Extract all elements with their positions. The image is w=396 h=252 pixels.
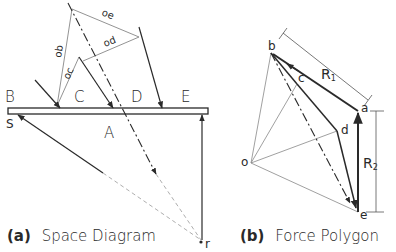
vertex-d-label: d	[341, 123, 349, 137]
vertex-a-label: a	[361, 101, 368, 115]
ray-od-label: od	[102, 34, 118, 49]
force-cd	[297, 84, 337, 131]
r2-letter: R	[363, 155, 373, 171]
resultant-be	[271, 53, 350, 203]
r1-subscript: 1	[331, 74, 336, 83]
left-reaction-arrow	[18, 115, 103, 173]
vertex-c-label: c	[298, 71, 305, 85]
pole-ray-od	[251, 131, 337, 163]
beam	[8, 108, 208, 114]
caption-a-prefix: (a)	[7, 227, 31, 245]
point-r-dot	[199, 240, 202, 243]
space-diagram: B C D E A S r ob oc od oe (a) Space Diag…	[5, 3, 210, 251]
r1-label: R1	[321, 66, 336, 83]
point-r-label: r	[205, 237, 210, 251]
caption-a-text: Space Diagram	[42, 227, 156, 245]
caption-a: (a) Space Diagram	[7, 227, 156, 245]
region-e-label: E	[181, 88, 190, 106]
pole-ray-oe	[251, 163, 358, 212]
r1-letter: R	[321, 66, 331, 82]
region-c-label: C	[74, 88, 84, 106]
r1-tick-top	[279, 28, 287, 39]
caption-b-text: Force Polygon	[275, 227, 379, 245]
force-de	[337, 131, 356, 208]
region-d-label: D	[131, 88, 143, 106]
ray-ob-label: ob	[52, 44, 65, 58]
resultant-extension	[156, 174, 201, 240]
r2-subscript: 2	[373, 163, 378, 172]
ray-oe-label: oe	[100, 7, 116, 22]
region-b-label: B	[5, 88, 15, 106]
diagram-canvas: B C D E A S r ob oc od oe (a) Space Diag…	[0, 0, 396, 252]
load-b-arrow	[35, 80, 60, 108]
force-polygon: b c d a e o R1 R2 (b) Force Polygon	[240, 28, 384, 245]
vertex-b-label: b	[268, 39, 276, 53]
vertex-e-label: e	[360, 208, 367, 222]
region-a-label: A	[104, 124, 114, 142]
pole-o-label: o	[241, 155, 248, 169]
caption-b-prefix: (b)	[240, 227, 264, 245]
caption-b: (b) Force Polygon	[240, 227, 379, 245]
support-s-label: S	[6, 117, 14, 131]
